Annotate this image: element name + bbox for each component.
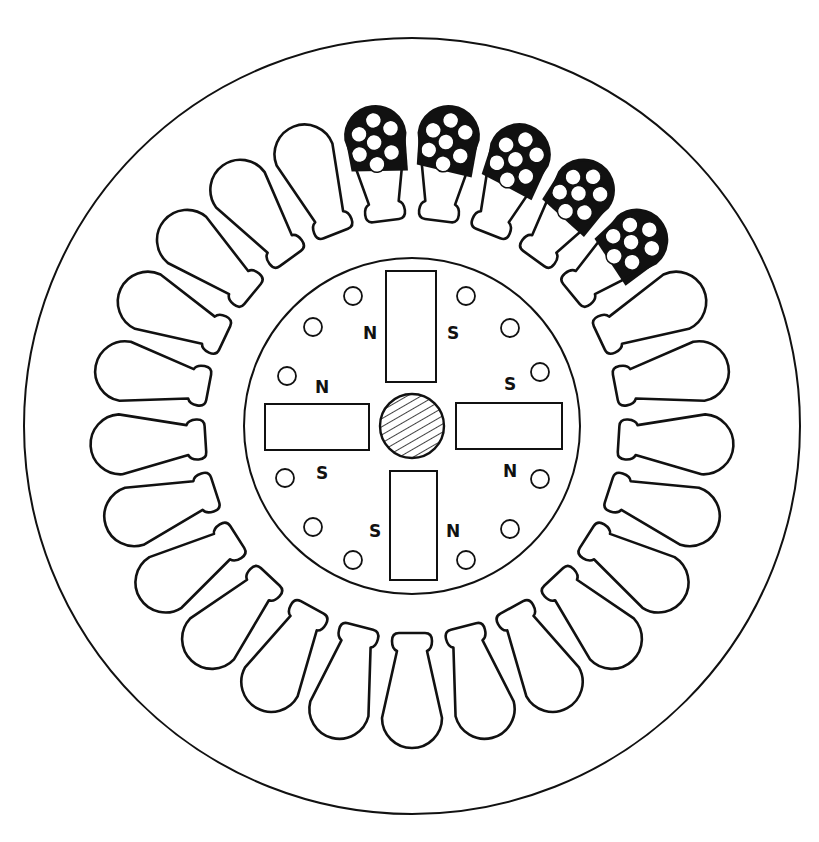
stator-slot xyxy=(170,556,292,681)
stator-slot xyxy=(587,262,717,365)
north-pole-label: N xyxy=(315,377,329,397)
rotor-hole xyxy=(304,318,322,336)
stator-slot xyxy=(90,336,214,416)
magnet-top xyxy=(386,271,436,382)
slot-outline xyxy=(610,336,734,416)
slot-outline xyxy=(124,512,253,624)
stator-slot xyxy=(96,461,224,554)
rotor-hole xyxy=(304,518,322,536)
rotor-hole xyxy=(344,551,362,569)
south-pole-label: S xyxy=(504,374,516,394)
stator-slot xyxy=(89,409,208,476)
motor-cross-section-diagram: NSNSSNSN xyxy=(0,0,819,842)
rotor-hole xyxy=(531,363,549,381)
wound-slot xyxy=(342,103,416,225)
south-pole-label: S xyxy=(316,463,328,483)
wound-slot xyxy=(408,103,482,225)
slot-outline xyxy=(571,512,700,624)
slot-outline xyxy=(617,409,736,476)
north-pole-label: N xyxy=(363,323,377,343)
rotor-hole xyxy=(457,287,475,305)
rotor-hole xyxy=(344,287,362,305)
slot-outline xyxy=(231,593,339,723)
slot-outline xyxy=(108,262,238,365)
slot-outline xyxy=(382,633,442,748)
magnet-bottom xyxy=(390,471,437,580)
stator-slot xyxy=(108,262,238,365)
slot-outline xyxy=(170,556,292,681)
shaft-hatched xyxy=(380,394,444,458)
rotor-hole xyxy=(457,551,475,569)
slot-outline xyxy=(198,148,314,276)
stator-slot xyxy=(617,409,736,476)
stator-slot xyxy=(532,556,654,681)
south-pole-label: S xyxy=(447,323,459,343)
stator-slot xyxy=(198,148,314,276)
stator-slot xyxy=(571,512,700,624)
stator-slot xyxy=(600,461,728,554)
rotor-hole xyxy=(278,367,296,385)
rotor-hole xyxy=(501,319,519,337)
slot-outline xyxy=(145,198,272,318)
stator-slot xyxy=(485,593,593,723)
slot-outline xyxy=(532,556,654,681)
rotor-hole xyxy=(531,470,549,488)
slot-outline xyxy=(485,593,593,723)
slot-outline xyxy=(90,336,214,416)
rotor-hole xyxy=(501,520,519,538)
magnet-right xyxy=(456,403,562,449)
north-pole-label: N xyxy=(446,521,460,541)
slot-outline xyxy=(89,409,208,476)
slot-outline xyxy=(600,461,728,554)
stator-slot xyxy=(610,336,734,416)
stator-slot xyxy=(231,593,339,723)
north-pole-label: N xyxy=(503,461,517,481)
stator-slot xyxy=(124,512,253,624)
stator-slot xyxy=(145,198,272,318)
rotor-hole xyxy=(276,469,294,487)
magnet-left xyxy=(265,404,369,450)
rotor: NSNSSNSN xyxy=(244,258,580,594)
slot-outline xyxy=(587,262,717,365)
stator-slot xyxy=(382,633,442,748)
south-pole-label: S xyxy=(369,521,381,541)
slot-outline xyxy=(96,461,224,554)
